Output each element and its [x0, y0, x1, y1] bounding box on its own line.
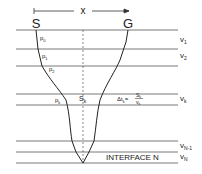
angle-p1: p1 [42, 53, 48, 61]
svg-text:vk: vk [136, 99, 141, 106]
velocity-vn-1: vN-1 [180, 141, 192, 151]
angle-p0: p0 [40, 35, 46, 43]
velocity-vk: vk [180, 94, 187, 104]
svg-text:Sk: Sk [136, 92, 141, 99]
interface-n-label: INTERFACE N [106, 153, 159, 162]
velocity-v2: v2 [180, 51, 187, 61]
source-label: S [32, 16, 41, 31]
velocity-vn: vN [180, 152, 188, 162]
angle-pk: pk [55, 97, 60, 105]
svg-text:Δtk=: Δtk= [117, 96, 129, 104]
ray-diagram: x S G p0 p1 p2 pk Sk Δtk= Sk vk v1 v2 vk… [0, 0, 202, 174]
layer-boundaries [16, 30, 178, 163]
angle-p2: p2 [49, 66, 55, 74]
receiver-label: G [123, 16, 133, 31]
segment-sk-label: Sk [79, 95, 87, 104]
offset-label: x [81, 5, 86, 16]
velocity-v1: v1 [180, 35, 187, 45]
